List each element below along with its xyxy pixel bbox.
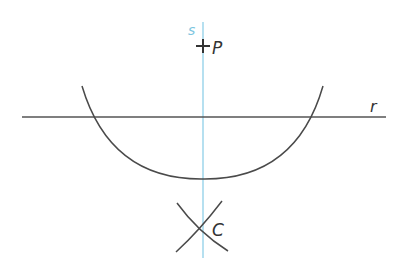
label-p: P xyxy=(212,38,223,58)
label-r: r xyxy=(370,97,378,116)
construction-diagram: s P r C xyxy=(0,0,409,275)
point-p-marker xyxy=(196,39,210,53)
label-s: s xyxy=(188,22,195,38)
label-c: C xyxy=(212,220,224,240)
